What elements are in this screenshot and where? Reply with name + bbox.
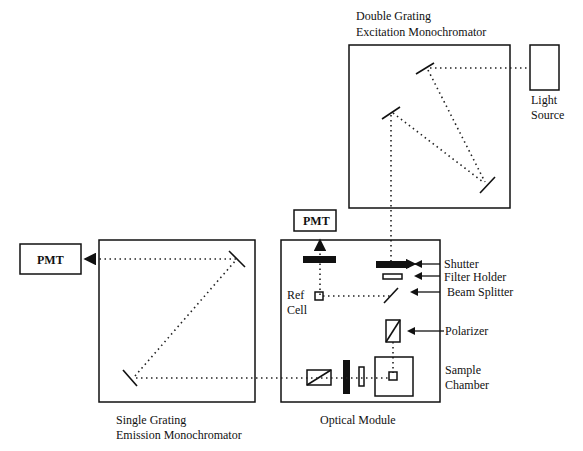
emission-shutter xyxy=(343,360,350,394)
emission-pmt: PMT xyxy=(20,244,81,274)
ref-cell-label-1: Ref xyxy=(287,288,304,302)
shutter xyxy=(376,261,409,268)
filter-holder xyxy=(383,274,402,279)
polarizer-label: Polarizer xyxy=(445,324,488,338)
fluorometer-diagram: Double Grating Excitation Monochromator … xyxy=(0,0,583,451)
pmt-emission-label: PMT xyxy=(37,253,64,267)
emission-mono-label-2: Emission Monochromator xyxy=(116,428,242,442)
emission-mono-label-1: Single Grating xyxy=(116,413,186,427)
optical-module-label: Optical Module xyxy=(320,413,396,427)
sample-chamber-label-1: Sample xyxy=(445,363,481,377)
reference-pmt: PMT xyxy=(294,210,336,231)
grating-mirror-3 xyxy=(480,177,495,193)
ref-cell xyxy=(315,292,323,300)
sample-chamber xyxy=(375,357,413,396)
pmt-ref-label: PMT xyxy=(303,214,330,228)
emission-grating xyxy=(229,251,245,267)
sample-cuvette xyxy=(389,372,397,380)
sample-chamber-label-2: Chamber xyxy=(445,378,489,392)
shutter-label: Shutter xyxy=(444,257,479,271)
light-source-label-2: Source xyxy=(531,108,564,122)
ref-cell-label-2: Cell xyxy=(287,303,308,317)
emission-filter xyxy=(359,367,364,386)
ref-shutter xyxy=(303,256,336,263)
emission-monochromator: Single Grating Emission Monochromator xyxy=(85,240,255,442)
light-source-label-1: Light xyxy=(531,93,558,107)
beam-splitter-label: Beam Splitter xyxy=(447,285,513,299)
light-source: Light Source xyxy=(530,45,564,122)
filter-holder-label: Filter Holder xyxy=(444,270,506,284)
excitation-mono-label-2: Excitation Monochromator xyxy=(356,25,486,39)
excitation-mono-label-1: Double Grating xyxy=(356,9,431,23)
optical-module: Optical Module Ref Cell xyxy=(136,240,444,427)
beam-splitter xyxy=(384,288,398,303)
excitation-monochromator: Double Grating Excitation Monochromator xyxy=(349,9,530,264)
emission-mirror xyxy=(123,370,137,386)
